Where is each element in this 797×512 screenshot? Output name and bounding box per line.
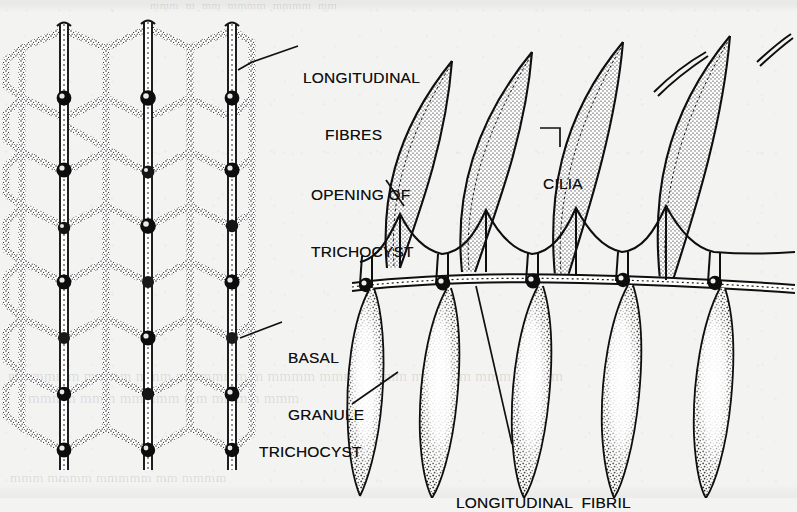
trichocyst-2 <box>420 288 459 498</box>
label-cilia-line1: CILIA <box>543 174 583 193</box>
label-longitudinal-fibril: LONGITUDINAL FIBRIL <box>456 455 631 512</box>
longitudinal-fibres-group <box>57 21 239 471</box>
label-longitudinal-fibril-line1: LONGITUDINAL FIBRIL <box>456 493 631 512</box>
cilium-2 <box>460 52 532 272</box>
label-trichocyst-line1: TRICHOCYST <box>259 442 362 461</box>
longitudinal-fibre-1 <box>57 23 71 471</box>
hexagonal-mesh <box>6 28 252 450</box>
longitudinal-fibre-2 <box>141 21 155 471</box>
leader-longitudinal-fibres <box>238 46 298 70</box>
label-cilia: CILIA <box>543 136 583 231</box>
cilia-group <box>386 34 793 280</box>
label-opening-of-trichocyst: OPENING OF TRICHOCYST <box>311 147 414 299</box>
label-longitudinal-fibres-line1: LONGITUDINAL <box>303 68 420 87</box>
label-opening-of-trichocyst-line2: TRICHOCYST <box>311 242 414 261</box>
longitudinal-fibre-3 <box>225 23 239 471</box>
cilium-4 <box>658 36 730 280</box>
surface-view-panel <box>6 21 252 471</box>
longitudinal-fibril <box>352 274 795 293</box>
label-longitudinal-fibres-line2: FIBRES <box>325 125 420 144</box>
leader-longitudinal-fibril <box>476 286 512 444</box>
label-trichocyst: TRICHOCYST <box>259 404 362 499</box>
anastomosing-strut <box>66 126 124 158</box>
label-basal-granule-line1: BASAL <box>288 348 364 367</box>
label-opening-of-trichocyst-line1: OPENING OF <box>311 185 414 204</box>
trichocyst-5 <box>694 288 733 498</box>
